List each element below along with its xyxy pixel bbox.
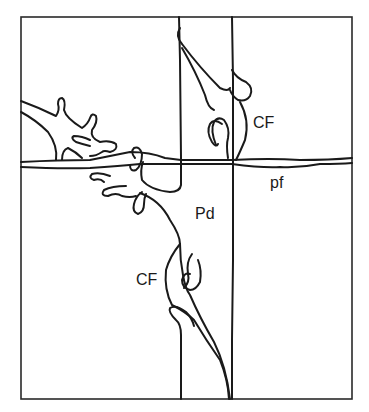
climbing-fiber-upper-inner — [182, 48, 214, 110]
neuron-diagram: CF pf Pd CF — [0, 0, 369, 412]
climbing-fiber-upper — [178, 28, 230, 90]
parallel-fiber-varicosity — [130, 148, 142, 171]
purkinje-dendrite-left-edge-lower — [170, 307, 194, 399]
dendrite-branch-lower-left-spine-b — [103, 186, 136, 197]
dendrite-branch-upper-left-spine-a — [62, 148, 82, 160]
frame-border — [21, 17, 352, 399]
diagram-canvas: CF pf Pd CF — [0, 0, 369, 412]
dendrite-branch-upper-left-spine-b — [72, 136, 90, 146]
parallel-fiber-upper-line — [21, 152, 352, 162]
dendrite-branch-lower-left-spine-a — [90, 173, 110, 182]
label-cf-upper: CF — [253, 114, 275, 131]
climbing-fiber-lower — [166, 244, 229, 399]
dendritic-spine-cf-upper — [212, 118, 228, 158]
label-pf: pf — [270, 174, 284, 191]
parallel-fiber-lower-line — [21, 163, 352, 168]
purkinje-dendrite-left-edge-upper — [141, 17, 181, 192]
dendrite-branch-upper-left-lower-edge — [21, 112, 56, 160]
climbing-fiber-upper-descending — [236, 102, 247, 160]
label-pd: Pd — [195, 205, 215, 222]
label-cf-lower: CF — [136, 271, 158, 288]
purkinje-dendrite-right-edge — [232, 17, 233, 399]
purkinje-dendrite-descending-curve — [140, 193, 180, 244]
